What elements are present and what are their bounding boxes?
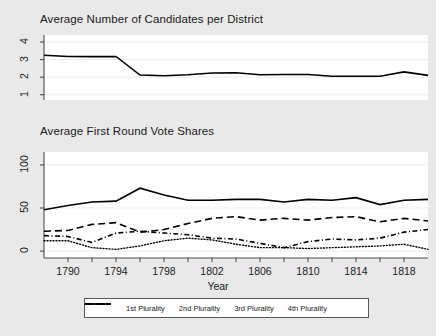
x-tick-label: 1794	[96, 265, 136, 277]
legend-item[interactable]: 4th Plurality	[288, 304, 327, 313]
x-tick-label: 1798	[144, 265, 184, 277]
y-tick-label: 100	[18, 150, 30, 178]
y-tick-label: 0	[18, 236, 30, 264]
series-line	[44, 230, 428, 248]
legend-label: 1st Plurality	[126, 304, 165, 313]
x-tick-label: 1790	[48, 265, 88, 277]
legend-label: 3rd Plurality	[234, 304, 274, 313]
x-tick-label: 1814	[336, 265, 376, 277]
x-tick-label: 1818	[384, 265, 424, 277]
legend-item[interactable]: 3rd Plurality	[234, 304, 274, 313]
x-tick-label: 1810	[288, 265, 328, 277]
legend-item[interactable]: 2nd Plurality	[179, 304, 220, 313]
legend-label: 2nd Plurality	[179, 304, 220, 313]
legend-swatch-dotted	[85, 299, 111, 309]
chart-figure: Average Number of Candidates per Distric…	[0, 0, 436, 336]
legend-label: 4th Plurality	[288, 304, 327, 313]
series-line	[44, 217, 428, 233]
x-tick-label: 1806	[240, 265, 280, 277]
y-tick-label: 4	[18, 27, 30, 55]
legend-item[interactable]: 1st Plurality	[126, 304, 165, 313]
x-axis-title: Year	[0, 280, 436, 292]
series-line	[44, 188, 428, 210]
x-tick-label: 1802	[192, 265, 232, 277]
chart-legend: 1st Plurality2nd Plurality3rd Plurality4…	[84, 298, 369, 318]
y-tick-label: 50	[18, 193, 30, 221]
series-line	[44, 238, 428, 249]
